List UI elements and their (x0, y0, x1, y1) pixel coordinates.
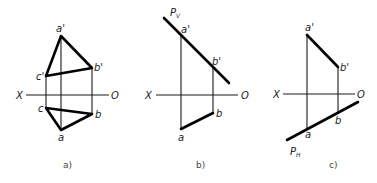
caption-b: b) (196, 160, 205, 170)
trace-subscript: V (176, 12, 181, 19)
axis-label-o-a: O (111, 90, 119, 101)
trace-ph-line (287, 102, 358, 140)
label-b: b (95, 109, 101, 120)
axis-label-o-c: O (357, 89, 365, 100)
label-a-prime: a' (305, 22, 314, 33)
axis-label-x-b: X (144, 90, 153, 101)
label-ph: PH (290, 146, 301, 158)
axis-label-x-a: X (15, 90, 24, 101)
label-a: a (178, 132, 184, 143)
label-b-prime: b' (340, 62, 349, 73)
axis-label-o-b: O (241, 90, 249, 101)
caption-a: a) (63, 160, 72, 170)
label-c: c (38, 103, 44, 114)
trace-pv-line (164, 18, 229, 83)
label-b: b (335, 115, 341, 126)
label-c-prime: c' (36, 71, 44, 82)
label-a: a (305, 129, 311, 140)
figure-c: X O a' b' b a PH c) (272, 22, 365, 170)
segment-ab-top-view (181, 113, 213, 129)
label-b: b (216, 108, 222, 119)
label-a-prime: a' (181, 24, 190, 35)
projection-diagram: X O a' b' c' c b a a) X O PV a' b' b a b… (0, 0, 377, 183)
triangle-top-view (46, 108, 92, 130)
label-b-prime: b' (94, 62, 103, 73)
label-b-prime: b' (212, 56, 221, 67)
triangle-front-view (46, 36, 92, 76)
label-pv: PV (170, 7, 181, 19)
axis-label-x-c: X (272, 89, 281, 100)
segment-ab-front-view (307, 35, 338, 67)
label-a-prime: a' (56, 23, 65, 34)
label-a: a (58, 132, 64, 143)
caption-c: c) (329, 160, 337, 170)
trace-subscript: H (296, 151, 301, 158)
figure-b: X O PV a' b' b a b) (144, 7, 249, 170)
figure-a: X O a' b' c' c b a a) (15, 23, 119, 170)
